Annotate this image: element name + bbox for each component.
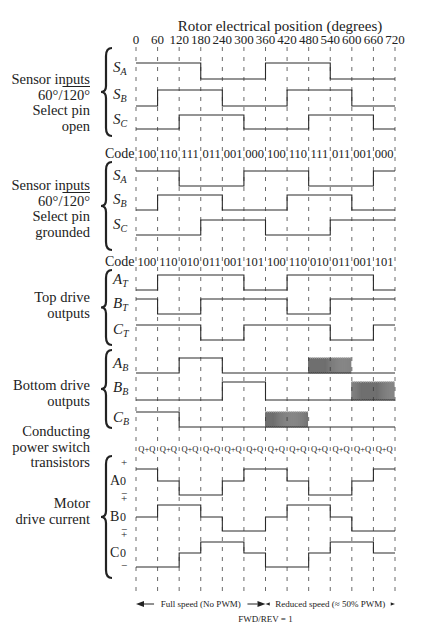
pwm-pulse — [267, 412, 268, 427]
code-value: 011 — [202, 147, 220, 161]
signal-label: AB — [112, 355, 128, 373]
brace — [101, 48, 112, 136]
code-value: 011 — [202, 255, 220, 269]
plus-mark: + — [121, 528, 127, 540]
pwm-pulse — [338, 358, 339, 373]
x-tick-label: 660 — [364, 32, 384, 47]
code-value: 001 — [224, 255, 243, 269]
pwm-pulse — [291, 412, 292, 427]
transistor-pair: Q+Q — [181, 444, 198, 454]
pwm-pulse — [277, 412, 278, 427]
pwm-pulse — [375, 382, 376, 400]
plus-mark: + — [121, 456, 127, 468]
pwm-pulse — [318, 358, 319, 373]
code-value: 001 — [353, 255, 372, 269]
plus-mark: + — [121, 492, 127, 504]
pwm-pulse — [377, 382, 378, 400]
x-tick-label: 240 — [213, 32, 233, 47]
transistor-pair: Q+Q — [225, 444, 242, 454]
x-tick-label: 420 — [277, 32, 297, 47]
code-value: 110 — [289, 255, 307, 269]
signal-label: AT — [112, 271, 129, 289]
phase-label: B — [110, 509, 119, 524]
pwm-pulse — [354, 382, 355, 400]
x-tick-label: 60 — [151, 32, 164, 47]
pwm-pulse — [379, 382, 380, 400]
timing-diagram: Rotor electrical position (degrees) Sens… — [0, 0, 423, 636]
signal-label: SB — [113, 191, 127, 209]
signal-label: CB — [113, 409, 129, 427]
pwm-pulse — [324, 358, 325, 373]
code-value: 111 — [181, 147, 199, 161]
pwm-pulse — [364, 382, 365, 400]
pwm-pulse — [334, 358, 335, 373]
x-tick-label: 720 — [385, 32, 405, 47]
signal-label: SA — [113, 167, 128, 185]
pwm-pulse — [368, 382, 369, 400]
pwm-pulse — [332, 358, 333, 373]
pwm-pulse — [328, 358, 329, 373]
pwm-pulse — [393, 382, 394, 400]
pwm-pulse — [366, 382, 367, 400]
code-value: 011 — [332, 255, 350, 269]
pwm-pulse — [356, 382, 357, 400]
brace — [101, 350, 112, 428]
code-value: 101 — [245, 255, 264, 269]
pwm-pulse — [273, 412, 274, 427]
fwd-rev-label: FWD/REV = 1 — [238, 614, 292, 624]
pwm-pulse — [317, 358, 318, 373]
x-tick-label: 540 — [321, 32, 341, 47]
x-tick-label: 180 — [191, 32, 211, 47]
transistor-pair: Q+Q — [203, 444, 220, 454]
signal-label: SA — [113, 59, 128, 77]
pwm-pulse — [281, 412, 282, 427]
transistor-pair: Q+Q — [333, 444, 350, 454]
pwm-pulse — [326, 358, 327, 373]
current-waveform-a — [136, 469, 395, 495]
pwm-pulse — [344, 358, 345, 373]
brace — [101, 162, 112, 250]
signal-label: SB — [113, 86, 127, 104]
pwm-pulse — [297, 412, 298, 427]
code-value: 100 — [137, 147, 156, 161]
signal-label: CT — [113, 321, 130, 339]
pwm-pulse — [350, 358, 351, 373]
pwm-pulse — [307, 412, 308, 427]
pwm-pulse — [336, 358, 337, 373]
pwm-pulse — [391, 382, 392, 400]
pwm-pulse — [287, 412, 288, 427]
zero-mark: 0 — [120, 510, 126, 524]
pwm-pulse — [381, 382, 382, 400]
minus-mark: − — [121, 559, 127, 571]
code-value: 001 — [353, 147, 372, 161]
arrowhead — [136, 601, 144, 607]
zero-mark: 0 — [120, 474, 126, 488]
pwm-pulse — [275, 412, 276, 427]
pwm-pulse — [285, 412, 286, 427]
pwm-pulse — [385, 382, 386, 400]
x-tick-label: 300 — [234, 32, 254, 47]
pwm-pulse — [303, 412, 304, 427]
pwm-pulse — [358, 382, 359, 400]
pwm-pulse — [383, 382, 384, 400]
pwm-pulse — [389, 382, 390, 400]
code-value: 000 — [375, 147, 394, 161]
pwm-pulse — [269, 412, 270, 427]
pwm-pulse — [346, 358, 347, 373]
code-label: Code — [105, 254, 135, 269]
code-value: 100 — [267, 147, 286, 161]
code-value: 000 — [245, 147, 264, 161]
pwm-pulse — [283, 412, 284, 427]
pwm-pulse — [362, 382, 363, 400]
code-value: 100 — [137, 255, 156, 269]
transistor-pair: Q+Q — [138, 444, 155, 454]
waveform-sa — [136, 63, 395, 79]
pwm-pulse — [373, 382, 374, 400]
waveform-plot: 060120180240300360420480540600660720SASB… — [0, 0, 423, 636]
transistor-pair: Q+Q — [354, 444, 371, 454]
pwm-pulse — [301, 412, 302, 427]
signal-label: SC — [113, 111, 128, 129]
zero-mark: 0 — [120, 546, 126, 560]
code-value: 111 — [311, 147, 329, 161]
transistor-pair: Q+Q — [289, 444, 306, 454]
